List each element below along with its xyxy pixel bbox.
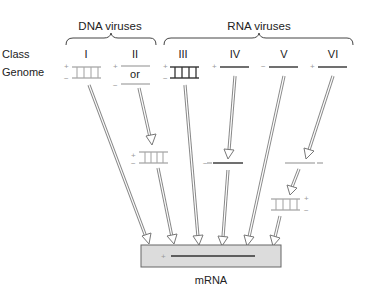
arrow-class-II-to-dsdna: [139, 88, 156, 145]
mrna-product: + mRNA: [141, 245, 281, 286]
arrow-class-VI-to-minus-strand: [304, 76, 333, 159]
genome-row-label: Genome: [2, 66, 44, 78]
arrow-class-IV-intermediate-to-mrna: [218, 170, 228, 246]
svg-text:−: −: [304, 206, 309, 215]
class-IV-intermediate-minus-strand: −: [203, 159, 243, 168]
class-row-label: Class: [2, 48, 30, 60]
class-V-genome-minus-ssrna: −: [261, 62, 298, 71]
virus-classification-diagram: DNA viruses RNA viruses Class Genome I I…: [0, 0, 365, 291]
class-VI-genome-plus-ssrna: +: [310, 62, 347, 71]
class-II-label: II: [132, 48, 138, 60]
class-II-genome-ssdna: + or −: [113, 62, 150, 90]
class-VI-intermediate-dsdna: + −: [271, 194, 309, 215]
or-label: or: [130, 68, 140, 80]
svg-text:+: +: [304, 194, 309, 203]
class-I-label: I: [84, 48, 87, 60]
class-IV-label: IV: [230, 48, 241, 60]
rna-bracket: [164, 33, 353, 45]
dna-bracket: [66, 33, 156, 45]
arrow-class-VI-strand-to-dsdna: [287, 169, 299, 195]
svg-text:−: −: [163, 74, 168, 83]
svg-text:+: +: [310, 62, 315, 71]
arrow-class-IV-to-minus-strand: [224, 76, 235, 159]
rna-viruses-label: RNA viruses: [227, 20, 291, 32]
mrna-label: mRNA: [195, 274, 228, 286]
arrow-class-I-to-mrna: [89, 85, 151, 244]
class-VI-label: VI: [328, 48, 338, 60]
svg-text:+: +: [161, 252, 166, 261]
svg-text:+: +: [113, 62, 118, 71]
class-II-intermediate-dsdna: + −: [131, 151, 168, 168]
svg-text:−: −: [131, 159, 136, 168]
class-V-label: V: [280, 48, 288, 60]
class-III-label: III: [178, 48, 187, 60]
svg-text:−: −: [113, 81, 118, 90]
class-III-genome-dsrna: + −: [163, 62, 199, 83]
class-I-genome-dsdna: + −: [64, 62, 101, 83]
svg-text:+: +: [212, 62, 217, 71]
dna-viruses-label: DNA viruses: [78, 20, 142, 32]
svg-text:+: +: [64, 62, 69, 71]
svg-text:+: +: [163, 62, 168, 71]
svg-text:−: −: [64, 74, 69, 83]
svg-text:−: −: [261, 62, 266, 71]
arrow-class-II-dsdna-to-mrna: [158, 168, 177, 244]
class-IV-genome-plus-ssrna: +: [212, 62, 249, 71]
arrow-class-III-to-mrna: [185, 85, 203, 245]
arrow-class-VI-dsdna-to-mrna: [270, 216, 280, 246]
